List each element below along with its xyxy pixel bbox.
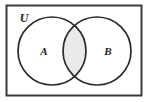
venn-diagram-canvas: U A B bbox=[0, 0, 150, 102]
venn-diagram-figure: U A B bbox=[0, 0, 150, 102]
set-a-label: A bbox=[39, 45, 47, 57]
set-b-label: B bbox=[103, 45, 111, 57]
universal-set-label: U bbox=[20, 11, 30, 25]
set-b-circle bbox=[63, 17, 131, 85]
